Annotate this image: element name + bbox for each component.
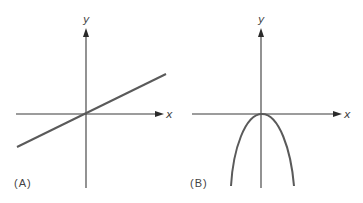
panel-b: y x (B) bbox=[190, 13, 351, 189]
x-arrow-icon-b bbox=[333, 111, 342, 117]
diagram-canvas: y x (A) y x (B) bbox=[0, 0, 363, 203]
panel-a: y x (A) bbox=[14, 13, 173, 189]
y-arrow-icon-a bbox=[83, 28, 89, 37]
x-label-a: x bbox=[165, 108, 173, 121]
parabola-curve bbox=[231, 114, 294, 186]
y-label-b: y bbox=[257, 13, 265, 26]
x-arrow-icon-a bbox=[155, 111, 164, 117]
panel-label-b: (B) bbox=[190, 177, 208, 189]
y-label-a: y bbox=[82, 13, 90, 26]
panel-label-a: (A) bbox=[14, 177, 32, 189]
y-arrow-icon-b bbox=[258, 28, 264, 37]
linear-curve bbox=[17, 74, 166, 147]
x-label-b: x bbox=[343, 108, 351, 121]
